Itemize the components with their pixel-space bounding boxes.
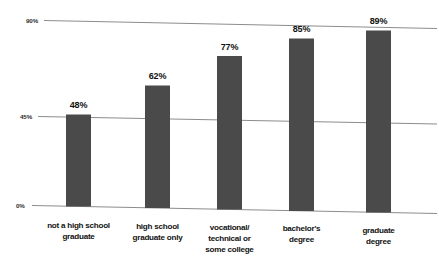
category-label-2-line-1: high school (136, 222, 179, 231)
category-label-2: high school graduate only (133, 222, 184, 242)
category-label-3: vocational/ technical or some college (205, 223, 254, 254)
category-label-1-line-2: graduate (62, 232, 95, 241)
category-label-5: graduate degree (362, 226, 395, 246)
ytick-label-0: 0% (16, 202, 25, 209)
category-label-1: not a high school graduate (47, 221, 110, 241)
bar-value-label-2: 62% (149, 71, 167, 81)
category-label-3-line-3: some college (205, 245, 254, 254)
ytick-label-90: 90% (26, 17, 39, 24)
category-label-5-line-2: degree (366, 237, 392, 246)
category-label-1-line-1: not a high school (47, 221, 110, 230)
bar-high-school-graduate-only (145, 86, 170, 209)
category-label-3-line-2: technical or (208, 234, 252, 243)
bar-group (66, 31, 391, 213)
bar-value-label-1: 48% (70, 100, 88, 110)
bar-value-label-5: 89% (370, 16, 388, 26)
category-label-4-line-2: degree (289, 235, 315, 244)
y-axis-labels: 90% 45% 0% (16, 17, 39, 209)
x-axis-labels: not a high school graduate high school g… (47, 221, 395, 254)
bar-vocational-technical-or-some-college (217, 56, 242, 210)
bar-graduate-degree (366, 31, 391, 213)
category-label-4: bachelor's degree (283, 224, 321, 244)
chart-canvas: 90% 45% 0% 48% 62% 77% 85% 89% not a hig… (0, 0, 439, 272)
bar-value-label-3: 77% (221, 42, 239, 52)
bar-chart: 90% 45% 0% 48% 62% 77% 85% 89% not a hig… (0, 0, 439, 272)
category-label-4-line-1: bachelor's (283, 224, 321, 233)
category-label-2-line-2: graduate only (133, 233, 184, 242)
ytick-label-45: 45% (20, 113, 33, 120)
bar-bachelors-degree (289, 39, 314, 212)
category-label-3-line-1: vocational/ (210, 223, 251, 232)
bar-value-label-4: 85% (293, 24, 311, 34)
bar-not-a-high-school-graduate (66, 115, 91, 207)
category-label-5-line-1: graduate (362, 226, 395, 235)
